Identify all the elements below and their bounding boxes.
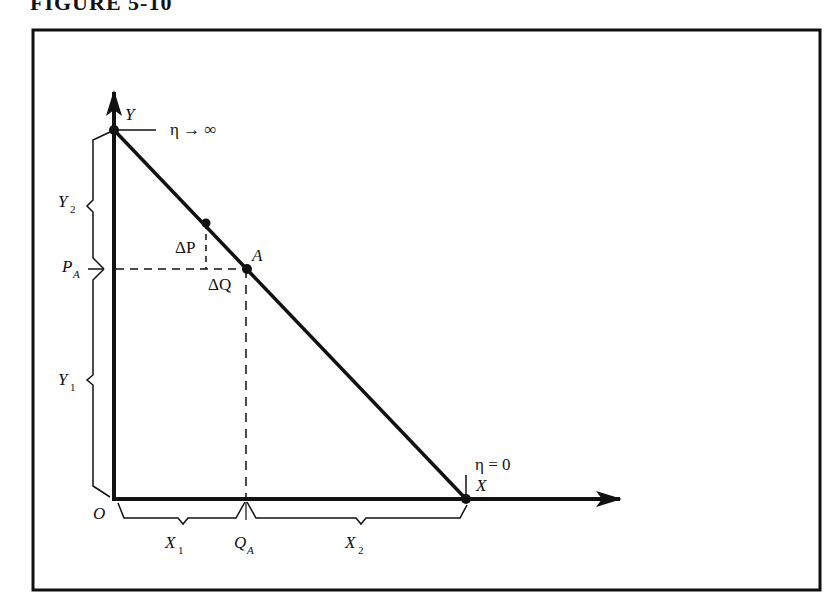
q-a-subscript: A [246, 544, 254, 556]
y-intercept-label: Y [125, 105, 136, 124]
eta-infinity-label: η → ∞ [170, 120, 217, 139]
eta-zero-label: η = 0 [475, 455, 510, 474]
figure-frame [33, 30, 820, 590]
demand-elasticity-diagram: Y η → ∞ X η = 0 O A ΔP ΔQ P A Y 2 Y 1 X … [0, 0, 840, 609]
x-intercept-label: X [475, 476, 487, 495]
y2-brace [87, 132, 110, 269]
demand-line [114, 130, 466, 499]
x1-brace [118, 502, 245, 524]
y2-label: Y [58, 192, 69, 211]
y1-brace [87, 269, 110, 497]
x1-subscript: 1 [178, 544, 184, 556]
x2-label: X [344, 533, 356, 552]
point-a-label: A [251, 246, 263, 265]
y1-subscript: 1 [70, 381, 76, 393]
q-a-label: Q [234, 533, 246, 552]
y1-label: Y [58, 370, 69, 389]
origin-label: O [93, 504, 105, 523]
delta-p-label: ΔP [175, 238, 195, 257]
p-a-subscript: A [72, 268, 80, 280]
p-a-label: P [61, 257, 72, 276]
x1-label: X [164, 533, 176, 552]
y2-subscript: 2 [70, 203, 76, 215]
x2-subscript: 2 [358, 544, 364, 556]
delta-q-label: ΔQ [208, 275, 231, 294]
x2-brace [247, 502, 467, 524]
